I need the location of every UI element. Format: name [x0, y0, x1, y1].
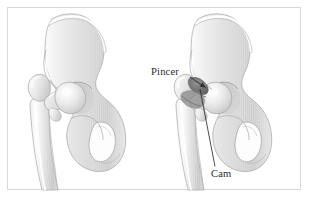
cam-label: Cam: [211, 169, 231, 180]
pincer-label: Pincer: [151, 67, 179, 78]
hip-impingement-figure: Pincer Cam: [0, 0, 309, 200]
anatomical-artwork: [0, 0, 309, 200]
normal-hip-illustration: [28, 14, 126, 190]
impingement-hip-illustration: [174, 14, 272, 190]
